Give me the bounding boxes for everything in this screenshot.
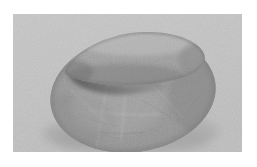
stones-photograph [13, 14, 242, 152]
photo-canvas [13, 14, 242, 152]
photo-grain-overlay [13, 14, 242, 152]
photo-frame [0, 0, 257, 167]
